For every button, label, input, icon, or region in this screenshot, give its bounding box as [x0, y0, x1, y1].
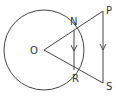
label-n: N	[70, 16, 77, 27]
label-r: R	[72, 73, 79, 84]
label-s: S	[106, 81, 112, 92]
label-o: O	[30, 45, 38, 56]
label-p: P	[106, 5, 112, 16]
geometry-diagram: O N R P S	[0, 0, 116, 99]
